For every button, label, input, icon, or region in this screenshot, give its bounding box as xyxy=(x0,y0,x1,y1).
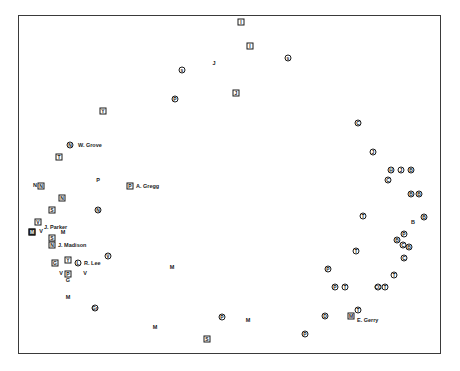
plain-marker: V xyxy=(83,271,87,277)
circle-marker: L xyxy=(75,260,82,267)
square-marker: N xyxy=(49,242,56,249)
plot-frame xyxy=(18,15,441,354)
square-marker: N xyxy=(38,183,45,190)
circle-marker: J xyxy=(370,149,377,156)
square-marker: S xyxy=(204,336,211,343)
square-marker: G xyxy=(52,260,59,267)
plain-marker: B xyxy=(411,220,415,226)
plain-marker: M xyxy=(246,318,251,324)
point-label: J. Madison xyxy=(58,242,86,248)
circle-marker: P xyxy=(332,284,339,291)
circle-marker: Gr xyxy=(92,305,99,312)
circle-marker: T xyxy=(382,284,389,291)
plain-marker: M xyxy=(170,265,175,271)
square-marker: M xyxy=(29,229,36,236)
circle-marker: T xyxy=(355,307,362,314)
circle-marker: P xyxy=(302,331,309,338)
plain-marker: J xyxy=(212,61,215,67)
plain-marker: P xyxy=(96,178,100,184)
square-marker: I xyxy=(247,43,254,50)
point-label: J. Parker xyxy=(44,224,67,230)
square-marker: I xyxy=(238,19,245,26)
circle-marker: V xyxy=(105,253,112,260)
circle-marker: T xyxy=(391,272,398,279)
plain-marker: G xyxy=(66,278,70,284)
point-label: E. Gerry xyxy=(357,317,378,323)
square-marker: J xyxy=(233,90,240,97)
circle-marker: CC xyxy=(375,284,382,291)
circle-marker: B xyxy=(406,244,413,251)
circle-marker: C xyxy=(385,177,392,184)
circle-marker: B xyxy=(416,191,423,198)
point-label: W. Grove xyxy=(78,142,102,148)
plain-marker: N xyxy=(33,183,37,189)
square-marker: V xyxy=(35,219,42,226)
circle-marker: D xyxy=(322,313,329,320)
circle-marker: T xyxy=(353,248,360,255)
square-marker: S xyxy=(49,235,56,242)
square-marker: S xyxy=(49,207,56,214)
circle-marker: T xyxy=(342,284,349,291)
plain-marker: M xyxy=(61,230,66,236)
plain-marker: M xyxy=(153,325,158,331)
plain-marker: V xyxy=(39,229,43,235)
circle-marker: N xyxy=(95,207,102,214)
circle-marker: N xyxy=(67,142,74,149)
circle-marker: C xyxy=(401,255,408,262)
point-label: A. Gregg xyxy=(136,183,159,189)
circle-marker: T xyxy=(360,213,367,220)
circle-marker: P xyxy=(219,314,226,321)
square-marker: P xyxy=(127,183,134,190)
circle-marker: H xyxy=(388,167,395,174)
square-marker: Y xyxy=(65,257,72,264)
square-marker: N xyxy=(59,195,66,202)
plain-marker: M xyxy=(66,295,71,301)
square-marker: Y xyxy=(100,108,107,115)
circle-marker: s xyxy=(179,67,186,74)
square-marker: M xyxy=(348,313,355,320)
circle-marker: P xyxy=(401,231,408,238)
circle-marker: s xyxy=(285,55,292,62)
circle-marker: B xyxy=(408,191,415,198)
circle-marker: P xyxy=(325,266,332,273)
square-marker: T xyxy=(56,154,63,161)
circle-marker: B xyxy=(408,167,415,174)
circle-marker: P xyxy=(172,96,179,103)
plain-marker: V xyxy=(59,271,63,277)
point-label: R. Lee xyxy=(84,260,101,266)
circle-marker: B xyxy=(421,214,428,221)
circle-marker: J xyxy=(398,167,405,174)
circle-marker: C xyxy=(355,120,362,127)
